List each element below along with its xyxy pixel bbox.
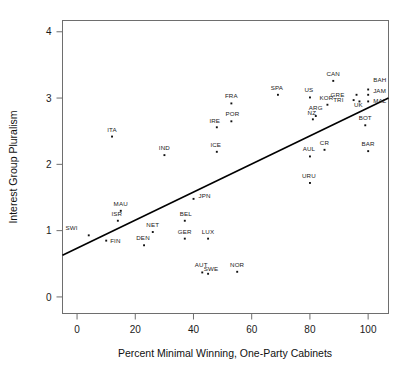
x-tick-label: 0 bbox=[74, 324, 80, 335]
data-point: NET bbox=[146, 221, 159, 233]
data-point-marker bbox=[143, 244, 145, 246]
data-point-label: CAN bbox=[326, 70, 340, 77]
data-point-label: FRA bbox=[225, 92, 239, 99]
data-point: GER bbox=[178, 228, 192, 240]
plot-frame bbox=[63, 21, 389, 314]
data-point-marker bbox=[193, 198, 195, 200]
data-point: IRE bbox=[209, 117, 220, 128]
data-point-label: NET bbox=[146, 221, 159, 228]
data-point-marker bbox=[117, 220, 119, 222]
data-point-marker bbox=[120, 210, 122, 212]
data-point: FRA bbox=[225, 92, 239, 104]
data-point: CAN bbox=[326, 70, 340, 82]
data-point-marker bbox=[216, 151, 218, 153]
data-point: US bbox=[304, 86, 313, 98]
data-point-marker bbox=[88, 234, 90, 236]
x-axis-title: Percent Minimal Winning, One-Party Cabin… bbox=[118, 347, 332, 359]
y-axis-ticks: 01234 bbox=[46, 26, 63, 302]
regression-trendline bbox=[63, 98, 389, 255]
data-point-marker bbox=[309, 182, 311, 184]
data-point: UK bbox=[354, 100, 364, 108]
data-point-marker bbox=[309, 155, 311, 157]
plot-canvas: 020406080100 01234 SWIFINISRMAUITADENNET… bbox=[0, 0, 412, 380]
data-point-label: LUX bbox=[202, 228, 215, 235]
data-point-marker bbox=[324, 149, 326, 151]
data-point-label: IND bbox=[159, 144, 170, 151]
data-point-label: US bbox=[304, 86, 313, 93]
data-point-label: FIN bbox=[110, 237, 120, 244]
data-point-group: SWIFINISRMAUITADENNETINDGERBELJPNAUTLUXS… bbox=[66, 70, 387, 275]
data-point-marker bbox=[201, 272, 203, 274]
data-point-label: BEL bbox=[180, 210, 193, 217]
data-point: POR bbox=[225, 110, 239, 122]
data-point-marker bbox=[312, 118, 314, 120]
data-point: JAM bbox=[367, 87, 386, 96]
data-point: LUX bbox=[202, 228, 215, 240]
data-point-label: POR bbox=[225, 110, 239, 117]
data-point-label: UK bbox=[354, 101, 364, 108]
data-point-label: BAH bbox=[373, 76, 386, 83]
data-point: AUL bbox=[303, 145, 316, 157]
data-point: ITA bbox=[107, 126, 117, 138]
data-point-label: MAL bbox=[373, 97, 387, 104]
data-point-label: DEN bbox=[136, 234, 150, 241]
data-point-marker bbox=[163, 154, 165, 156]
x-tick-label: 40 bbox=[188, 324, 200, 335]
data-point-label: IRE bbox=[209, 117, 220, 124]
data-point-marker bbox=[184, 238, 186, 240]
data-point: IND bbox=[159, 144, 170, 156]
data-point-marker bbox=[332, 80, 334, 82]
data-point: MAL bbox=[367, 97, 386, 104]
data-point-label: JAM bbox=[373, 87, 386, 94]
data-point-label: BAR bbox=[362, 140, 376, 147]
data-point-label: SWI bbox=[66, 224, 78, 231]
data-point: JPN bbox=[193, 192, 211, 200]
x-tick-label: 80 bbox=[304, 324, 316, 335]
y-tick-label: 3 bbox=[46, 93, 52, 104]
data-point-marker bbox=[356, 94, 358, 96]
data-point-label: NOR bbox=[230, 261, 245, 268]
data-point-label: BOT bbox=[359, 114, 372, 121]
data-point-marker bbox=[367, 150, 369, 152]
data-point-marker bbox=[207, 238, 209, 240]
data-point-marker bbox=[152, 231, 154, 233]
data-point: CR bbox=[320, 139, 330, 151]
data-point-marker bbox=[315, 115, 317, 117]
y-tick-label: 4 bbox=[46, 26, 52, 37]
data-point-label: SPA bbox=[271, 84, 284, 91]
y-tick-label: 0 bbox=[46, 292, 52, 303]
data-point: BEL bbox=[180, 210, 193, 222]
data-point-marker bbox=[367, 89, 369, 91]
data-point: SPA bbox=[271, 84, 284, 96]
x-tick-label: 20 bbox=[130, 324, 142, 335]
data-point: DEN bbox=[136, 234, 150, 246]
x-tick-label: 100 bbox=[360, 324, 377, 335]
data-point: SWE bbox=[204, 265, 219, 275]
data-point-label: MAU bbox=[114, 200, 128, 207]
data-point-marker bbox=[230, 102, 232, 104]
data-point-label: SWE bbox=[204, 265, 219, 272]
data-point: BAR bbox=[362, 140, 376, 152]
data-point-label: ICE bbox=[210, 141, 221, 148]
data-point-label: AUL bbox=[303, 145, 316, 152]
y-tick-label: 2 bbox=[46, 159, 52, 170]
data-point-label: CR bbox=[320, 139, 330, 146]
data-point: FIN bbox=[105, 237, 120, 244]
data-point-marker bbox=[367, 100, 369, 102]
data-point-marker bbox=[326, 104, 328, 106]
data-point-label: URU bbox=[302, 172, 316, 179]
data-point: ICE bbox=[210, 141, 221, 153]
data-point-marker bbox=[111, 136, 113, 138]
x-tick-label: 60 bbox=[246, 324, 258, 335]
data-point-label: GRE bbox=[331, 91, 345, 98]
data-point: NOR bbox=[230, 261, 245, 273]
data-point: SWI bbox=[66, 224, 90, 236]
data-point-label: JPN bbox=[198, 192, 210, 199]
data-point: URU bbox=[302, 172, 316, 184]
y-axis-title: Interest Group Pluralism bbox=[7, 110, 19, 223]
x-axis-ticks: 020406080100 bbox=[74, 314, 377, 335]
data-point-marker bbox=[364, 124, 366, 126]
data-point-marker bbox=[184, 220, 186, 222]
data-point-marker bbox=[230, 120, 232, 122]
scatter-plot-figure: 020406080100 01234 SWIFINISRMAUITADENNET… bbox=[0, 0, 412, 380]
